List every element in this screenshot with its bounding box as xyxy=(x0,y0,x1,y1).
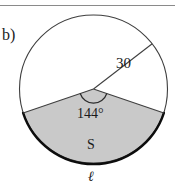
radius-length-label: 30 xyxy=(116,56,131,71)
arc-length-label: ℓ xyxy=(88,170,94,184)
central-angle-label: 144° xyxy=(77,107,104,121)
circle-sector-diagram xyxy=(0,0,175,191)
sector-area-label: S xyxy=(87,138,95,152)
part-label: b) xyxy=(2,27,15,43)
figure-container: b) 30 144° S ℓ xyxy=(0,0,175,191)
shaded-sector-region xyxy=(23,89,164,164)
